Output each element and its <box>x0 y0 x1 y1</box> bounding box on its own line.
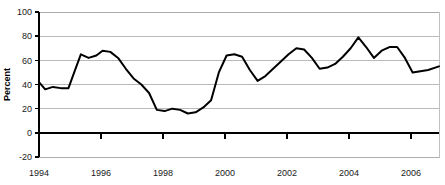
y-axis-title: Percent <box>2 68 12 101</box>
x-tick-label-1996: 1996 <box>91 168 111 178</box>
y-tick-label-40: 40 <box>22 80 32 90</box>
data-series-line <box>39 37 439 113</box>
x-tick-label-2006: 2006 <box>401 168 421 178</box>
y-tick-label-80: 80 <box>22 31 32 41</box>
percent-line-chart: 100806040200-201994199619982000200220042… <box>0 0 445 185</box>
chart-svg: 100806040200-201994199619982000200220042… <box>0 0 445 185</box>
x-tick-label-1994: 1994 <box>29 168 49 178</box>
y-tick-label-100: 100 <box>17 7 32 17</box>
x-tick-label-1998: 1998 <box>153 168 173 178</box>
y-tick-label-0: 0 <box>27 128 32 138</box>
y-tick-label--20: -20 <box>19 152 32 162</box>
x-tick-label-2004: 2004 <box>339 168 359 178</box>
x-tick-label-2002: 2002 <box>277 168 297 178</box>
x-tick-label-2000: 2000 <box>215 168 235 178</box>
y-tick-label-20: 20 <box>22 104 32 114</box>
y-tick-label-60: 60 <box>22 56 32 66</box>
